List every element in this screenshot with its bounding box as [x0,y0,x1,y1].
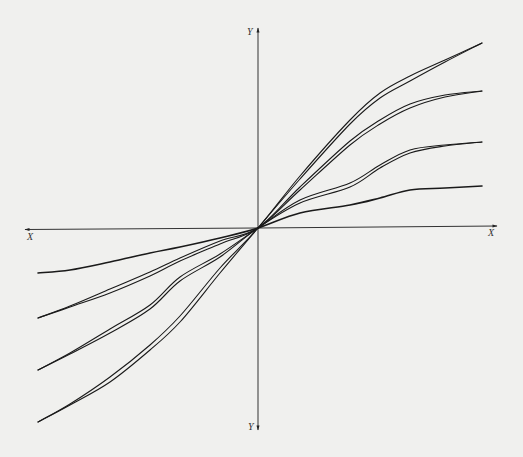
x-axis-positive [258,226,497,228]
x-axis-negative [25,228,258,230]
diagram-canvas: X X Y Y [0,0,523,457]
x-axis-label-left: X [27,232,33,242]
curves-plot [0,0,523,457]
curve-4-flattest [38,186,482,273]
curve-2 [38,91,482,318]
x-axis-label-right: X [488,228,494,238]
curve-3 [38,142,482,370]
curve-3-line-2 [38,142,482,370]
y-axis-label-bottom: Y [248,422,254,432]
curve-2-line-2 [38,91,482,318]
curve-4-flattest-line-1 [38,186,482,273]
curve-1-steepest [38,43,482,422]
curve-1-steepest-line-1 [38,43,482,422]
curve-2-line-1 [38,91,482,318]
curves [38,43,482,422]
y-axis-label-top: Y [247,27,253,37]
curve-1-steepest-line-2 [38,43,482,422]
axes [25,28,497,430]
